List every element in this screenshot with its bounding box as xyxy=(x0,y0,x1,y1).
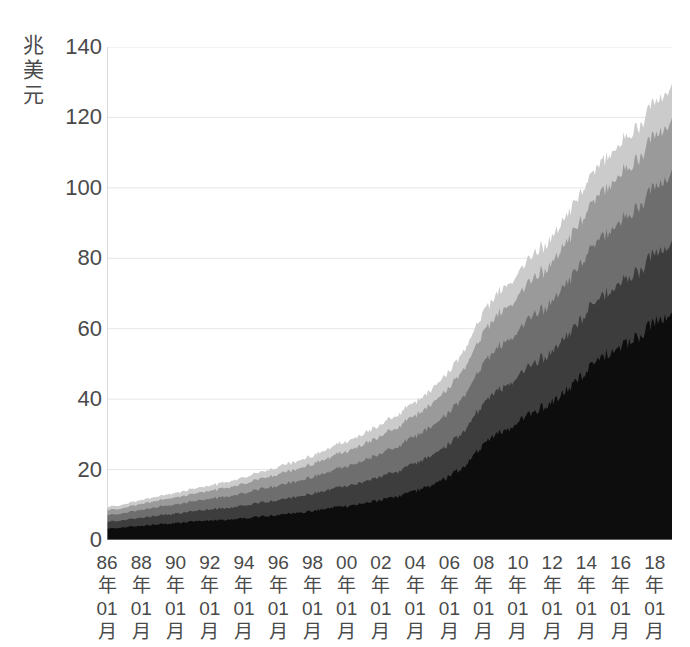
x-tick-month: 01 xyxy=(535,597,569,620)
y-tick-label: 120 xyxy=(50,104,102,130)
x-tick-label: 86年01月 xyxy=(90,551,124,643)
x-tick-label: 10年01月 xyxy=(501,551,535,643)
x-tick-month-suffix: 月 xyxy=(364,620,398,643)
x-tick-year-suffix: 年 xyxy=(467,574,501,597)
x-tick-year-suffix: 年 xyxy=(638,574,672,597)
x-tick-label: 06年01月 xyxy=(432,551,466,643)
x-tick-month-suffix: 月 xyxy=(330,620,364,643)
x-tick-month: 01 xyxy=(604,597,638,620)
x-tick-month-suffix: 月 xyxy=(124,620,158,643)
x-tick-label: 08年01月 xyxy=(467,551,501,643)
x-tick-month-suffix: 月 xyxy=(158,620,192,643)
x-tick-label: 00年01月 xyxy=(330,551,364,643)
x-tick-month-suffix: 月 xyxy=(295,620,329,643)
x-tick-label: 90年01月 xyxy=(158,551,192,643)
x-tick-month-suffix: 月 xyxy=(432,620,466,643)
x-tick-year: 12 xyxy=(535,551,569,574)
x-tick-month-suffix: 月 xyxy=(90,620,124,643)
x-tick-year-suffix: 年 xyxy=(432,574,466,597)
x-tick-label: 96年01月 xyxy=(261,551,295,643)
plot-area xyxy=(107,47,672,540)
y-tick-label: 100 xyxy=(50,175,102,201)
x-tick-year-suffix: 年 xyxy=(398,574,432,597)
x-tick-month-suffix: 月 xyxy=(604,620,638,643)
x-tick-year: 00 xyxy=(330,551,364,574)
x-tick-month: 01 xyxy=(398,597,432,620)
y-tick-label: 140 xyxy=(50,34,102,60)
x-tick-label: 94年01月 xyxy=(227,551,261,643)
x-tick-year-suffix: 年 xyxy=(158,574,192,597)
y-tick-label: 40 xyxy=(50,386,102,412)
x-tick-month-suffix: 月 xyxy=(535,620,569,643)
y-tick-label: 0 xyxy=(50,527,102,553)
x-tick-month: 01 xyxy=(330,597,364,620)
x-tick-month-suffix: 月 xyxy=(261,620,295,643)
x-tick-month-suffix: 月 xyxy=(638,620,672,643)
x-tick-label: 04年01月 xyxy=(398,551,432,643)
x-tick-label: 88年01月 xyxy=(124,551,158,643)
x-tick-month: 01 xyxy=(467,597,501,620)
x-tick-year-suffix: 年 xyxy=(90,574,124,597)
x-tick-month: 01 xyxy=(501,597,535,620)
x-tick-month-suffix: 月 xyxy=(398,620,432,643)
x-tick-month-suffix: 月 xyxy=(227,620,261,643)
x-tick-year-suffix: 年 xyxy=(364,574,398,597)
x-tick-month-suffix: 月 xyxy=(501,620,535,643)
x-tick-month: 01 xyxy=(124,597,158,620)
x-tick-year: 10 xyxy=(501,551,535,574)
x-tick-label: 18年01月 xyxy=(638,551,672,643)
x-tick-month: 01 xyxy=(364,597,398,620)
y-axis-tick-labels: 140120100806040200 xyxy=(40,0,102,647)
x-tick-year-suffix: 年 xyxy=(227,574,261,597)
x-tick-month: 01 xyxy=(432,597,466,620)
x-tick-month: 01 xyxy=(227,597,261,620)
stacked-area-chart: 兆 美 元 140120100806040200 86年01月88年01月90年… xyxy=(0,0,690,647)
x-tick-label: 12年01月 xyxy=(535,551,569,643)
x-tick-label: 98年01月 xyxy=(295,551,329,643)
x-tick-label: 16年01月 xyxy=(604,551,638,643)
x-tick-month-suffix: 月 xyxy=(193,620,227,643)
x-tick-year: 18 xyxy=(638,551,672,574)
x-tick-year: 94 xyxy=(227,551,261,574)
plot-svg xyxy=(107,47,672,540)
x-tick-year: 96 xyxy=(261,551,295,574)
x-tick-year-suffix: 年 xyxy=(569,574,603,597)
x-tick-year: 98 xyxy=(295,551,329,574)
x-tick-year-suffix: 年 xyxy=(535,574,569,597)
x-tick-month: 01 xyxy=(261,597,295,620)
x-tick-year: 04 xyxy=(398,551,432,574)
x-tick-label: 02年01月 xyxy=(364,551,398,643)
x-tick-year: 92 xyxy=(193,551,227,574)
x-tick-month-suffix: 月 xyxy=(569,620,603,643)
x-tick-year-suffix: 年 xyxy=(193,574,227,597)
x-tick-year: 88 xyxy=(124,551,158,574)
x-tick-month: 01 xyxy=(193,597,227,620)
x-tick-month: 01 xyxy=(90,597,124,620)
x-tick-year: 02 xyxy=(364,551,398,574)
x-tick-label: 14年01月 xyxy=(569,551,603,643)
x-tick-year: 90 xyxy=(158,551,192,574)
x-tick-month: 01 xyxy=(638,597,672,620)
x-tick-year: 86 xyxy=(90,551,124,574)
x-tick-year: 08 xyxy=(467,551,501,574)
x-tick-year-suffix: 年 xyxy=(124,574,158,597)
y-tick-label: 20 xyxy=(50,457,102,483)
x-tick-year-suffix: 年 xyxy=(261,574,295,597)
x-tick-year-suffix: 年 xyxy=(295,574,329,597)
y-tick-label: 60 xyxy=(50,316,102,342)
x-tick-year-suffix: 年 xyxy=(330,574,364,597)
area-layers xyxy=(107,84,672,540)
x-tick-year: 06 xyxy=(432,551,466,574)
x-tick-month: 01 xyxy=(295,597,329,620)
x-tick-year-suffix: 年 xyxy=(501,574,535,597)
x-tick-year-suffix: 年 xyxy=(604,574,638,597)
x-tick-month-suffix: 月 xyxy=(467,620,501,643)
x-tick-month: 01 xyxy=(158,597,192,620)
x-tick-year: 16 xyxy=(604,551,638,574)
x-tick-year: 14 xyxy=(569,551,603,574)
x-tick-month: 01 xyxy=(569,597,603,620)
y-tick-label: 80 xyxy=(50,245,102,271)
x-tick-label: 92年01月 xyxy=(193,551,227,643)
